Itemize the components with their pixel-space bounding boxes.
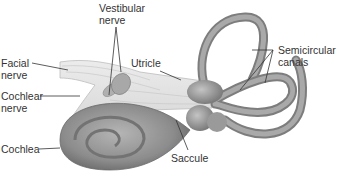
- label-facial-nerve: Facial nerve: [1, 57, 29, 81]
- label-line: nerve: [1, 69, 29, 81]
- label-line: Facial: [1, 57, 29, 69]
- label-line: nerve: [99, 14, 145, 26]
- inner-ear-diagram: [0, 0, 342, 176]
- label-cochlear-nerve: Cochlear nerve: [1, 90, 43, 114]
- label-vestibular-nerve: Vestibular nerve: [99, 2, 145, 26]
- label-semicircular-canals: Semicircular canals: [278, 44, 336, 68]
- label-line: Semicircular: [278, 44, 336, 56]
- label-cochlea: Cochlea: [1, 143, 40, 155]
- vestibule-structure: [207, 112, 227, 132]
- label-line: Vestibular: [99, 2, 145, 14]
- label-line: canals: [278, 56, 336, 68]
- label-line: Saccule: [171, 152, 208, 164]
- label-line: Cochlear: [1, 90, 43, 102]
- label-line: nerve: [1, 102, 43, 114]
- utricle-structure: [187, 80, 223, 104]
- label-saccule: Saccule: [171, 152, 208, 164]
- label-line: Cochlea: [1, 143, 40, 155]
- label-utricle: Utricle: [131, 57, 161, 69]
- label-line: Utricle: [131, 57, 161, 69]
